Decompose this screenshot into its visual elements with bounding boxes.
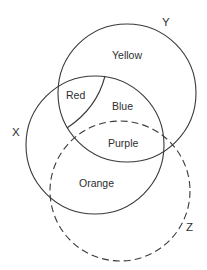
red-blue-divider — [67, 76, 105, 128]
region-label-yellow: Yellow — [112, 49, 142, 61]
set-label-z: Z — [186, 221, 193, 233]
region-label-blue: Blue — [112, 100, 133, 112]
set-label-x: X — [12, 126, 20, 138]
region-label-purple: Purple — [108, 137, 139, 149]
circle-x — [26, 76, 164, 214]
region-label-orange: Orange — [79, 177, 114, 189]
region-label-red: Red — [66, 89, 85, 101]
venn-diagram: Y X Z Yellow Red Blue Purple Orange — [0, 0, 207, 270]
set-label-y: Y — [162, 16, 170, 28]
